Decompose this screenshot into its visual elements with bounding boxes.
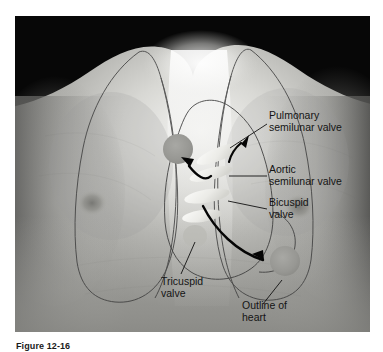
label-pulmonary-line1: Pulmonary <box>269 109 320 121</box>
label-bicuspid-line2: valve <box>269 208 294 220</box>
label-outline-line2: heart <box>242 311 266 323</box>
left-areola <box>77 190 107 216</box>
label-tricuspid-line1: Tricuspid <box>161 275 203 287</box>
label-tricuspid-line2: valve <box>161 287 186 299</box>
label-aortic-line2: semilunar valve <box>269 175 342 187</box>
label-bicuspid-line1: Bicuspid <box>269 196 309 208</box>
label-outline-line1: Outline of <box>242 299 287 311</box>
tricuspid-lower-node <box>183 225 207 247</box>
marker-mitral-site <box>270 246 300 276</box>
left-pectoral-shadow <box>49 92 173 240</box>
label-pulmonary-line2: semilunar valve <box>269 121 342 133</box>
label-aortic-line1: Aortic <box>269 163 296 175</box>
photograph-canvas: Pulmonary semilunar valve Aortic semilun… <box>15 16 370 332</box>
anatomical-photograph: Pulmonary semilunar valve Aortic semilun… <box>15 16 370 332</box>
figure-caption-label: Figure 12-16 <box>16 341 70 351</box>
figure-container: Pulmonary semilunar valve Aortic semilun… <box>0 0 383 352</box>
figure-caption: Figure 12-16 <box>16 341 356 352</box>
